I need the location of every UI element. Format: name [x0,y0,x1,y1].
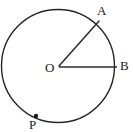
point-label-a: A [97,4,106,17]
radius-line-oa-icon [59,21,99,66]
point-label-p: P [29,118,36,131]
geometry-figure: A B O P [0,0,133,132]
circle-outline-icon [2,10,115,123]
geometry-canvas [0,0,133,132]
point-label-b: B [120,59,129,72]
center-label-o: O [45,61,54,74]
